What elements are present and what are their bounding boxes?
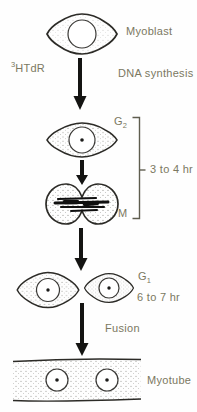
reagent-text: HTdR <box>15 62 45 74</box>
myotube-nucleus-left-dot <box>55 378 59 382</box>
myoblast-cell <box>47 14 117 54</box>
g1-cell-left <box>17 272 79 307</box>
dna-synthesis-label: DNA synthesis <box>118 67 193 79</box>
arrow-m-to-g1 <box>75 228 88 271</box>
m-phase-cell <box>46 184 118 224</box>
arrow-g2-to-m <box>76 160 88 185</box>
g1-letter: G <box>138 270 147 282</box>
g1-right-label-dot <box>107 286 110 289</box>
duration-g2-m-label: 3 to 4 hr <box>150 163 193 175</box>
myotube-label: Myotube <box>147 374 191 386</box>
g1-cell-right <box>85 274 134 303</box>
duration-g1-label: 6 to 7 hr <box>137 291 180 303</box>
myoblast-nucleus <box>68 20 96 48</box>
g1-left-label-dot <box>46 288 49 291</box>
g2-cell <box>47 123 117 157</box>
g1-label: G1 <box>138 270 151 285</box>
g2-label-dot <box>80 138 84 142</box>
arrow-fusion <box>76 303 89 356</box>
myoblast-fusion-diagram: 3HTdR Myoblast DNA synthesis G2 3 to 4 h… <box>0 0 197 412</box>
reagent-label: 3HTdR <box>11 61 45 74</box>
g2-letter: G <box>114 115 123 127</box>
myotube-cytoplasm <box>13 359 141 401</box>
m-phase-label: M <box>118 207 127 219</box>
myotube-nucleus-right-dot <box>105 378 109 382</box>
fusion-label: Fusion <box>105 322 140 334</box>
g2-subscript: 2 <box>123 121 127 130</box>
myotube-cell <box>13 359 141 401</box>
g1-subscript: 1 <box>147 276 151 285</box>
g2-label: G2 <box>114 115 127 130</box>
duration-bracket <box>133 118 146 219</box>
myoblast-label: Myoblast <box>126 25 172 37</box>
arrow-dna-synthesis <box>74 58 87 110</box>
